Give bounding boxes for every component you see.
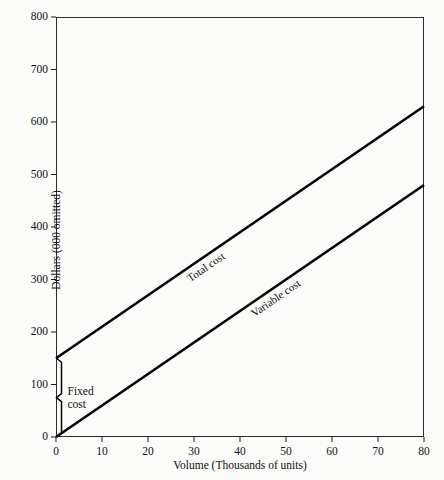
y-tick-label: 200 <box>31 326 48 338</box>
y-tick-label: 0 <box>42 431 48 443</box>
x-tick-label: 70 <box>372 446 384 458</box>
y-tick-label: 600 <box>31 116 48 128</box>
chart-figure: 0100200300400500600700800 01020304050607… <box>0 0 444 480</box>
fixed-cost-annotation: Fixed cost <box>68 385 94 412</box>
y-tick-label: 300 <box>31 274 48 286</box>
y-tick-label: 400 <box>31 221 48 233</box>
x-tick-label: 80 <box>418 446 430 458</box>
y-axis-title: Dollars (000 omitted) <box>50 190 62 290</box>
series-line-total-cost <box>56 106 424 358</box>
x-axis-title: Volume (Thousands of units) <box>56 459 424 471</box>
x-tick-label: 50 <box>280 446 292 458</box>
fixed-cost-label-line-1: Fixed <box>68 385 94 399</box>
x-tick-label: 40 <box>234 446 246 458</box>
fixed-cost-bracket <box>57 358 62 437</box>
x-tick-label: 10 <box>96 446 108 458</box>
y-tick-label: 500 <box>31 169 48 181</box>
x-tick-label: 60 <box>326 446 338 458</box>
x-tick-label: 0 <box>53 446 59 458</box>
x-axis-tick-marks <box>56 437 424 442</box>
x-tick-label: 20 <box>142 446 154 458</box>
fixed-cost-label-line-2: cost <box>68 398 94 412</box>
series-line-variable-cost <box>56 185 424 437</box>
y-tick-label: 100 <box>31 379 48 391</box>
x-tick-label: 30 <box>188 446 200 458</box>
data-series-lines <box>56 106 424 437</box>
y-tick-label: 700 <box>31 64 48 76</box>
y-tick-label: 800 <box>31 11 48 23</box>
